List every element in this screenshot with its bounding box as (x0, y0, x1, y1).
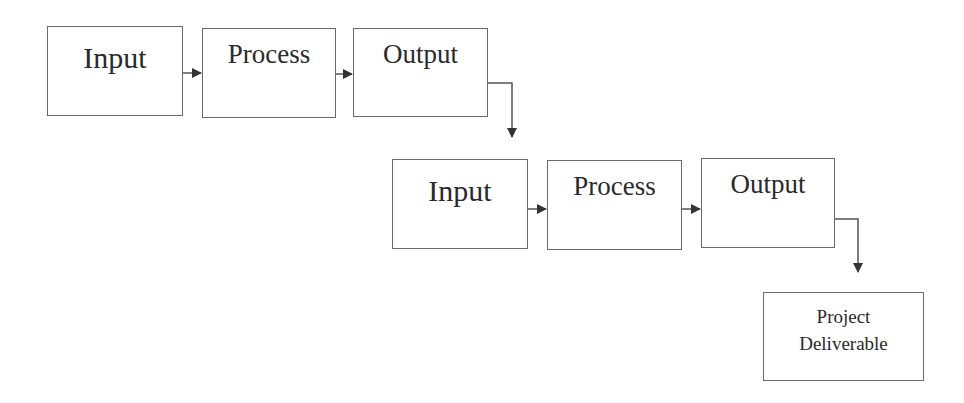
arrow-r1-to-r2 (488, 83, 512, 137)
row1-input-label: Input (83, 41, 146, 115)
row2-process-box: Process (547, 160, 682, 250)
row2-input-box: Input (392, 159, 528, 249)
row1-process-label: Process (228, 39, 311, 117)
arrow-r2-to-deliverable (835, 219, 858, 272)
row2-output-box: Output (701, 158, 835, 248)
row1-output-box: Output (353, 28, 488, 117)
project-deliverable-box: Project Deliverable (763, 292, 924, 381)
row2-output-label: Output (730, 169, 805, 247)
row2-input-label: Input (428, 174, 491, 248)
flowchart-canvas: Input Process Output Input Process Outpu… (0, 0, 964, 403)
deliverable-line1: Project (799, 303, 888, 330)
row2-process-label: Process (573, 171, 656, 249)
row1-input-box: Input (47, 26, 183, 116)
deliverable-line2: Deliverable (799, 330, 888, 357)
row1-process-box: Process (202, 28, 336, 118)
row1-output-label: Output (383, 39, 458, 116)
